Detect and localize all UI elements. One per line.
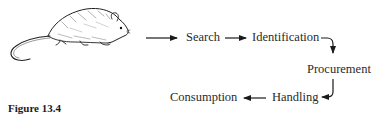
figure-caption: Figure 13.4 [8,103,61,114]
arrow-procurement-to-handling [322,79,333,97]
step-search: Search [186,31,220,44]
diagram-canvas: Search Identification Procurement Handli… [0,0,381,116]
step-identification: Identification [252,31,319,44]
step-handling: Handling [272,91,319,104]
step-procurement: Procurement [307,63,371,76]
step-consumption: Consumption [170,91,237,104]
arrow-identification-to-procurement [321,38,333,53]
